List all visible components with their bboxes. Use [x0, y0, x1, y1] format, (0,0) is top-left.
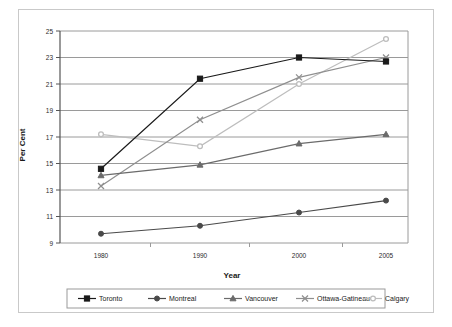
legend-marker-icon	[371, 296, 376, 301]
legend-label: Vancouver	[245, 295, 279, 302]
legend-label: Calgary	[385, 295, 410, 303]
x-tick-label: 2000	[292, 252, 307, 259]
legend: TorontoMontrealVancouverOttawa-GatineauC…	[67, 289, 410, 308]
data-point	[198, 223, 203, 228]
data-point	[383, 59, 388, 64]
legend-label: Ottawa-Gatineau	[317, 295, 370, 302]
data-series-group	[98, 37, 389, 237]
y-tick-label: 25	[46, 28, 54, 35]
y-tick-label: 15	[46, 160, 54, 167]
data-point	[99, 132, 104, 137]
chart-figure: 91113151719212325 1980199020002005 Per C…	[0, 0, 452, 327]
x-tick-label: 1980	[94, 252, 109, 259]
legend-item-toronto[interactable]: Toronto	[78, 295, 122, 302]
y-tick-label: 9	[49, 240, 53, 247]
data-point	[98, 166, 103, 171]
legend-item-ottawa-gatineau[interactable]: Ottawa-Gatineau	[296, 295, 370, 302]
y-tick-label: 19	[46, 107, 54, 114]
data-point	[384, 198, 389, 203]
legend-label: Montreal	[169, 295, 197, 302]
legend-label: Toronto	[99, 295, 122, 302]
y-tick-label: 17	[46, 134, 54, 141]
x-axis-title: Year	[224, 271, 241, 280]
data-point	[383, 131, 389, 136]
data-point	[297, 82, 302, 87]
series-montreal	[99, 198, 389, 236]
data-point	[99, 231, 104, 236]
y-tick-label: 13	[46, 187, 54, 194]
series-line	[101, 58, 386, 169]
series-line	[101, 201, 386, 234]
data-point	[296, 55, 301, 60]
legend-marker-icon	[155, 296, 160, 301]
legend-marker-icon	[84, 296, 89, 301]
series-vancouver	[98, 131, 389, 177]
line-chart: 91113151719212325 1980199020002005 Per C…	[0, 0, 452, 327]
y-tick-labels-group: 91113151719212325	[46, 28, 60, 247]
plot-container: 91113151719212325 1980199020002005 Per C…	[0, 0, 452, 327]
data-point	[198, 144, 203, 149]
y-tick-label: 23	[46, 54, 54, 61]
series-ottawa-gatineau	[98, 55, 389, 190]
series-line	[101, 134, 386, 175]
y-axis-title: Per Cent	[18, 128, 27, 161]
data-point	[197, 117, 203, 123]
x-tick-label: 2005	[379, 252, 394, 259]
series-line	[101, 58, 386, 187]
x-tick-label: 1990	[193, 252, 208, 259]
legend-item-vancouver[interactable]: Vancouver	[224, 295, 279, 302]
series-toronto	[98, 55, 388, 171]
data-point	[384, 37, 389, 42]
y-tick-label: 11	[46, 213, 53, 220]
data-point	[197, 76, 202, 81]
x-tick-labels-group: 1980199020002005	[94, 243, 394, 259]
data-point	[297, 210, 302, 215]
y-tick-label: 21	[46, 81, 54, 88]
data-point	[98, 183, 104, 189]
